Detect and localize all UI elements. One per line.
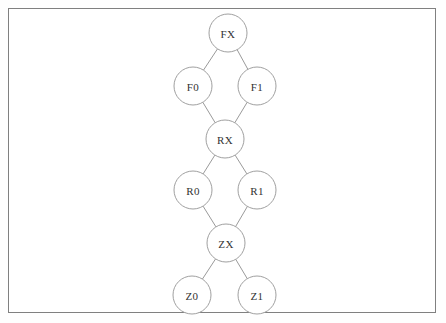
graph-edge-zx-z1: [236, 259, 248, 278]
graph-node-z1[interactable]: Z1: [238, 276, 276, 314]
node-label-r0: R0: [186, 185, 200, 197]
graph-node-r0[interactable]: R0: [174, 171, 212, 209]
graph-edge-r1-zx: [236, 206, 248, 226]
graph-node-fx[interactable]: FX: [209, 14, 247, 52]
node-label-r1: R1: [250, 185, 264, 197]
graph-edge-fx-f1: [237, 50, 248, 70]
node-layer: FXF0F1RXR0R1ZXZ0Z1: [173, 14, 276, 314]
node-label-z0: Z0: [185, 290, 198, 302]
graph-node-r1[interactable]: R1: [238, 171, 276, 209]
graph-edge-fx-f0: [203, 49, 217, 70]
graph-edge-rx-r1: [235, 155, 247, 174]
node-label-f0: F0: [187, 81, 200, 93]
graph-canvas: FXF0F1RXR0R1ZXZ0Z1: [0, 0, 446, 323]
graph-edge-f1-rx: [235, 102, 247, 122]
graph-edge-rx-r0: [203, 155, 215, 174]
node-label-rx: RX: [217, 134, 233, 146]
graph-node-f0[interactable]: F0: [174, 67, 212, 105]
graph-node-zx[interactable]: ZX: [207, 224, 245, 262]
node-label-z1: Z1: [250, 290, 263, 302]
graph-node-f1[interactable]: F1: [238, 67, 276, 105]
node-label-fx: FX: [221, 28, 236, 40]
graph-edge-f0-rx: [203, 102, 215, 122]
graph-node-rx[interactable]: RX: [206, 120, 244, 158]
page-root: FXF0F1RXR0R1ZXZ0Z1: [0, 0, 446, 323]
graph-edge-zx-z0: [202, 259, 215, 279]
graph-edge-r0-zx: [203, 206, 216, 227]
graph-node-z0[interactable]: Z0: [173, 276, 211, 314]
node-label-zx: ZX: [218, 238, 233, 250]
node-label-f1: F1: [251, 81, 263, 93]
